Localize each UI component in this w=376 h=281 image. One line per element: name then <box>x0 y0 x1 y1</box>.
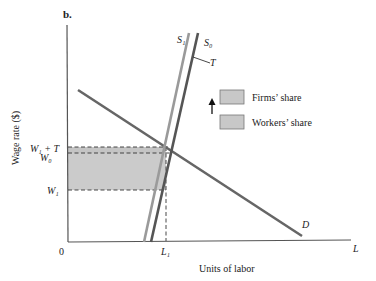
panel-label: b. <box>63 8 72 20</box>
d-label: D <box>301 219 310 230</box>
l1-label: L₁ <box>160 246 170 257</box>
x-axis <box>68 240 351 242</box>
s0-label: S₀ <box>204 37 213 48</box>
arrow-head-icon <box>209 98 216 105</box>
firms-share-area <box>68 147 166 153</box>
y-axis <box>67 25 68 242</box>
workers-share-area <box>68 153 166 190</box>
firms-share-legend-label: Firms’ share <box>252 92 302 103</box>
l-label: L <box>352 243 359 254</box>
x-axis-title: Units of labor <box>199 263 255 274</box>
supply-curve-s0 <box>151 33 198 242</box>
origin-label: 0 <box>59 246 64 257</box>
legend: Firms’ share Workers’ share <box>209 90 313 129</box>
t-label: T <box>210 57 217 68</box>
w0-label: W₀ <box>40 152 52 163</box>
workers-share-swatch <box>220 115 244 129</box>
y-axis-title: Wage rate ($) <box>10 111 22 165</box>
w1-label: W₁ <box>47 185 59 196</box>
firms-share-swatch <box>220 90 244 104</box>
s1-label: S₁ <box>177 34 185 45</box>
tax-marker <box>193 57 210 63</box>
workers-share-legend-label: Workers’ share <box>252 117 312 128</box>
tax-incidence-diagram: b. S₁ S₀ T D W₁ + T W₀ W₁ 0 L₁ L Wage ra… <box>0 0 376 281</box>
